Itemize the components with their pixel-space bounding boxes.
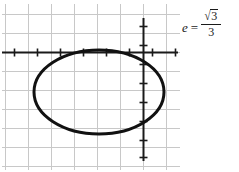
math-figure: e = √ 3 3 xyxy=(0,0,239,172)
formula-fraction: √ 3 3 xyxy=(201,9,221,38)
fraction-numerator: √ 3 xyxy=(202,9,220,24)
radicand-value: 3 xyxy=(210,9,218,23)
eccentricity-formula: e = √ 3 3 xyxy=(182,9,238,49)
radical-sign-glyph: √ xyxy=(205,9,211,23)
formula-equals-sign: = xyxy=(188,13,201,34)
fraction-denominator: 3 xyxy=(208,25,214,38)
square-root-icon: √ 3 xyxy=(204,9,218,23)
